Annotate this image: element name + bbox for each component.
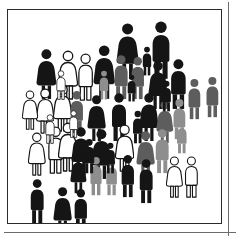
pictogram-leg-left [107,164,110,173]
pictogram-head [86,139,93,146]
pictogram-body-torso [177,129,187,144]
pictogram-leg-left [71,130,73,138]
pictogram-leg-right [192,185,196,197]
pictogram-body-skirt [166,167,182,187]
pictogram-leg-right [82,219,86,224]
pictogram-head [33,133,41,141]
pictogram-head [208,77,216,85]
pictogram-leg-right [38,164,41,175]
person-pictogram-female-white [22,90,38,130]
person-pictogram-male-black [141,46,153,76]
pictogram-leg-left [58,91,61,99]
pictogram-body-skirt [28,143,45,164]
pictogram-head [163,81,169,87]
person-pictogram-male-mid_gray [98,70,110,100]
pictogram-leg-left [171,186,174,197]
pictogram-head [101,71,107,77]
pictogram-leg-left [107,185,110,196]
pictogram-leg-left [123,185,127,197]
pictogram-head [173,59,183,69]
person-pictogram-female-white [166,156,183,198]
pictogram-head [170,157,178,165]
pictogram-head [58,71,64,77]
pictogram-leg-right [97,184,100,195]
pictogram-head [33,179,42,188]
person-pictogram-male-black [137,158,155,204]
pictogram-leg-left [64,158,67,171]
pictogram-leg-right [105,91,108,99]
pictogram-body-skirt [22,100,37,119]
pictogram-head [135,111,141,117]
pictogram-leg-right [213,105,217,117]
pictogram-head [114,93,124,103]
pictogram-head [58,187,67,196]
pictogram-leg-left [129,94,131,102]
pictogram-leg-right [175,186,178,197]
pictogram-leg-right [183,144,186,154]
pictogram-head [71,111,76,116]
pictogram-leg-right [129,185,133,197]
pictogram-leg-left [163,102,166,111]
pictogram-head [122,23,133,34]
pictogram-leg-right [111,164,114,173]
pictogram-head [81,54,90,63]
illustration-frame [7,9,222,224]
pictogram-body-torso [84,147,94,163]
pictogram-leg-left [50,160,54,173]
pictogram-leg-right [62,91,65,99]
pictogram-head [187,157,195,165]
outer-trim-rule-right [228,2,229,236]
pictogram-head [26,91,34,99]
pictogram-body-torso [70,117,78,130]
pictogram-body-torso [153,35,170,62]
pictogram-leg-right [31,119,34,129]
pictogram-leg-left [76,219,80,224]
pictogram-head [47,115,53,121]
pictogram-head [99,45,110,56]
person-pictogram-female-white [28,132,46,176]
pictogram-head [96,129,106,139]
pictogram-leg-left [47,135,50,143]
pictogram-head [107,143,113,149]
person-pictogram-male-black [131,110,145,144]
pictogram-head [179,121,185,127]
pictogram-leg-left [101,91,104,99]
pictogram-body-torso [100,78,108,92]
pictogram-head [144,47,150,53]
pictogram-body-torso [207,87,219,106]
pictogram-body-torso [128,81,136,94]
pictogram-leg-right [147,190,151,203]
pictogram-leg-left [32,210,36,223]
pictogram-leg-right [148,67,151,75]
pictogram-head [153,61,163,71]
person-pictogram-male-mid_gray [175,120,189,154]
pictogram-leg-left [85,163,88,173]
person-pictogram-male-white [183,156,200,198]
person-pictogram-male-black [126,74,137,102]
pictogram-head [175,99,183,107]
pictogram-body-torso [186,167,198,186]
pictogram-leg-left [144,67,147,75]
pictogram-leg-right [74,130,76,138]
pictogram-leg-left [187,185,191,197]
pictogram-leg-left [141,190,145,203]
pictogram-body-skirt [53,198,71,221]
pictogram-body-torso [133,119,143,134]
pictogram-head [41,49,51,59]
crowd-group [8,10,221,223]
pictogram-body-torso [57,78,65,92]
pictogram-leg-right [90,163,93,173]
pictogram-head [155,22,166,33]
pictogram-head [190,79,198,87]
pictogram-leg-right [38,210,42,223]
person-pictogram-male-black [104,142,117,174]
pictogram-head [124,155,132,163]
pictogram-leg-right [113,185,116,196]
person-pictogram-male-dark_gray [204,76,221,118]
person-pictogram-male-black [119,154,137,198]
pictogram-body-torso [171,71,186,94]
pictogram-leg-left [178,144,181,154]
pictogram-body-torso [46,122,54,136]
pictogram-leg-left [33,164,36,175]
pictogram-head [120,125,129,134]
